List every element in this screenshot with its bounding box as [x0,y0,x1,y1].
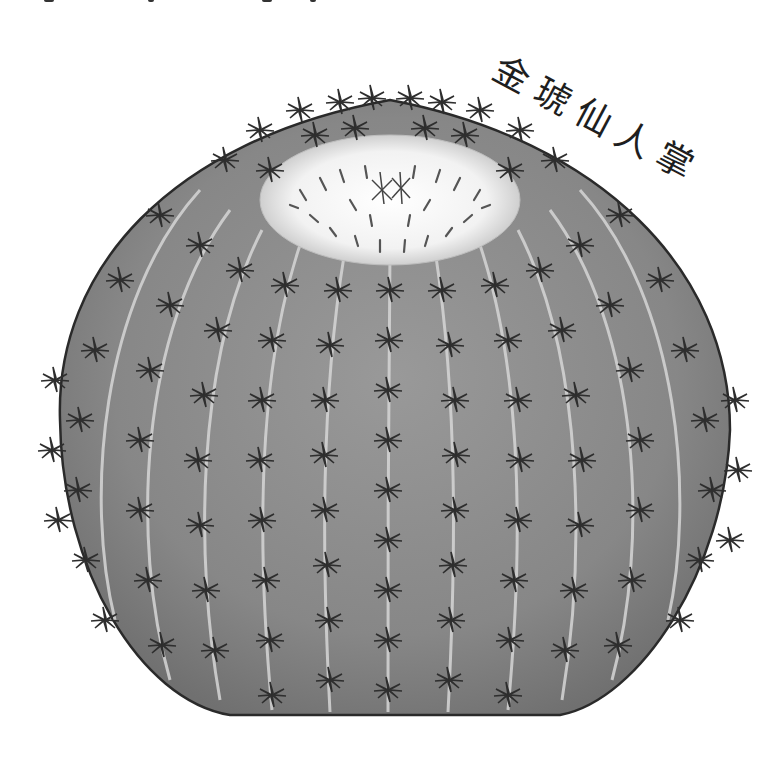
cactus-drawing [0,0,783,767]
cactus-illustration: 金琥仙人掌 [0,0,783,767]
cactus-crown [260,135,520,265]
